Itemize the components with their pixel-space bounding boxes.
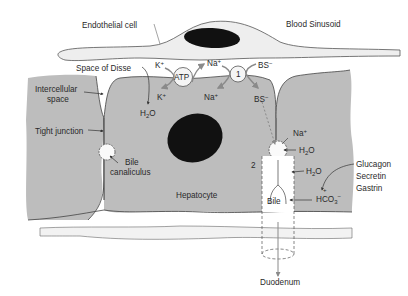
lower-sinusoid-wall (40, 226, 352, 239)
label-glucagon: Glucagon (356, 160, 391, 169)
label-tight-junction: Tight junction (35, 127, 84, 136)
label-bile-canaliculus-2: canaliculus (110, 168, 151, 177)
label-marker-2: 2 (251, 161, 256, 170)
label-intercellular-space-2: space (47, 95, 69, 104)
ion-na-out: Na+ (207, 58, 221, 68)
label-duodenum: Duodenum (260, 278, 300, 287)
ion-k-out: K+ (155, 60, 164, 70)
label-endothelial-cell: Endothelial cell (82, 21, 137, 30)
label-space-of-disse: Space of Disse (76, 64, 132, 73)
label-bile-canaliculus: Bile (125, 158, 139, 167)
label-bile: Bile (267, 197, 281, 206)
label-secretin: Secretin (356, 172, 386, 181)
label-intercellular-space: Intercellular (35, 85, 78, 94)
label-hepatocyte: Hepatocyte (176, 191, 218, 200)
label-blood-sinusoid: Blood Sinusoid (286, 20, 341, 29)
label-transporter-1: 1 (236, 70, 241, 79)
hco3-stimulation-plus: + (323, 187, 327, 193)
label-gastrin: Gastrin (356, 184, 383, 193)
bile-secretion-diagram: Endothelial cell Blood Sinusoid Space of… (0, 0, 408, 296)
bile-canaliculus-left (99, 144, 115, 160)
label-atp: ATP (174, 73, 190, 82)
ion-bs-out: BS− (258, 60, 273, 70)
